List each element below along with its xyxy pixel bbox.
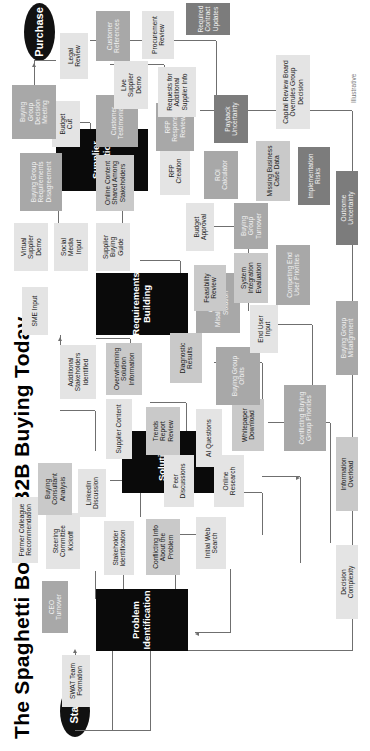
stage-problem-identification[interactable]: ProblemIdentification [96,589,188,651]
node-trends-report-review[interactable]: TrendsReportReview [146,407,180,455]
node-required-contract-updates[interactable]: RequiredContractUpdates [186,3,230,35]
arrowhead [296,476,300,480]
node-supplier-content[interactable]: Supplier Content [106,399,132,459]
node-live-supplier-demo[interactable]: LiveSupplierDemo [114,61,148,109]
node-missing-business-case-data[interactable]: Missing BusinessCase Data [256,141,290,201]
node-virtual-supplier-demo[interactable]: VirtualSupplierDemo [14,223,48,271]
node-supplier-buying-guide[interactable]: SupplierBuyingGuide [96,223,130,271]
terminal-purchase: Purchase [24,3,55,61]
connector [112,639,113,731]
legend-swatch-buying-group-misalignment: Buying GroupMisalignment [336,301,358,375]
node-social-media-input[interactable]: SocialMediaInput [54,223,88,271]
connector [300,477,301,563]
legend-swatch-outcome-uncertainty: OutcomeUncertainty [336,171,358,245]
node-buying-group-turnover[interactable]: BuyingGroupTurnover [234,203,268,249]
connector [230,569,231,633]
node-buying-group-orbits[interactable]: Buying GroupOrbits [216,347,260,405]
arrowhead [73,649,77,653]
node-budget-approval[interactable]: BudgetApproval [186,203,214,251]
node-customer-references[interactable]: CustomerReferences [96,11,130,61]
connector [34,60,56,61]
node-initial-web-search[interactable]: Initial WebSearch [196,517,226,569]
arrowhead [195,632,199,636]
node-competing-end-user-priorities[interactable]: Competing EndUser Priorities [276,245,310,305]
connector [95,411,96,451]
node-requests-for-additional-supplier-info[interactable]: Requests forAdditionalSupplier Info [158,67,196,117]
node-feasibility-review[interactable]: FeasibilityReview [194,265,226,311]
node-conflicting-info-about-the-problem[interactable]: Conflicting InfoAbout theProblem [146,519,180,575]
connector [195,632,230,633]
node-linkedin-discussion[interactable]: LinkedInDiscussion [78,469,106,517]
connector [262,493,263,535]
node-steering-committee-kickoff[interactable]: SteeringCommitteeKickoff [46,513,80,569]
node-buying-group-decision-meeting[interactable]: BuyingGroupDecisionMeeting [12,85,56,139]
connector [75,730,112,731]
node-conflicting-buying-group-priorities[interactable]: Conflicting BuyingGroup Priorities [284,385,326,451]
node-peer-discussions[interactable]: PeerDiscussions [164,455,194,507]
node-buying-group-requirements-disagreement[interactable]: Buying GroupRequirementsDisagreement [20,153,62,211]
arrowhead [58,337,62,341]
node-diagnostic-results[interactable]: DiagnosticResults [170,333,202,383]
node-online-content-shared-among-stakeholders[interactable]: Online ContentShared AmongStakeholders [96,155,134,211]
arrowhead [32,63,36,67]
node-roi-calculator[interactable]: ROICalculator [204,151,238,199]
legend-swatch-decision-complexity: DecisionComplexity [336,545,358,619]
node-end-user-input[interactable]: End UserInput [250,305,278,353]
connector [150,639,151,731]
node-payback-uncertainty[interactable]: PaybackUncertainty [214,95,248,143]
node-former-colleague-recommendation[interactable]: Former ColleagueRecommendation [12,497,38,563]
connector [96,338,130,339]
node-rfp-creation[interactable]: RFPCreation [160,147,190,195]
connector [262,476,300,477]
diagram-canvas: The Spaghetti Bowl of B2B Buying Today I… [0,0,370,751]
node-overwhelming-solution-information[interactable]: OverwhelmingSolutionInformation [106,343,142,395]
node-swat-team-formation[interactable]: SWAT TeamFormation [62,655,90,707]
node-additional-stakeholders-identified[interactable]: AdditionalStakeholdersIdentified [60,345,96,399]
node-implementation-risks[interactable]: ImplementationRisks [298,147,330,205]
node-stakeholder-identification[interactable]: StakeholderIdentification [104,521,134,575]
connector [112,730,150,731]
node-budget-cut[interactable]: BudgetCut [52,101,80,147]
connector [60,410,95,411]
node-capital-review-board-overrules-group-decision[interactable]: Capital Review BoardOverrules GroupDecis… [276,55,310,129]
connector [330,423,331,543]
node-ceo-turnover[interactable]: CEOTurnover [42,581,68,633]
connector [140,260,180,261]
node-sme-input[interactable]: SME Input [22,287,48,335]
node-buying-consultant-analysis[interactable]: BuyingConsultantAnalysis [38,463,72,515]
connector [150,402,186,403]
node-system-integration-evaluation[interactable]: SystemIntegrationEvaluation [234,253,268,303]
node-procurement-review[interactable]: ProcurementReview [142,11,174,59]
stage-requirements-building[interactable]: RequirementsBuilding [96,273,188,335]
node-ai-questions[interactable]: AI Questions [196,409,222,467]
legend-swatch-information-overload: InformationOverload [336,437,358,511]
node-whitepaper-download[interactable]: WhitepaperDownload [232,399,264,451]
node-legal-review[interactable]: LegalReview [60,33,88,79]
footnote-illustrative: Illustrative [350,74,357,103]
